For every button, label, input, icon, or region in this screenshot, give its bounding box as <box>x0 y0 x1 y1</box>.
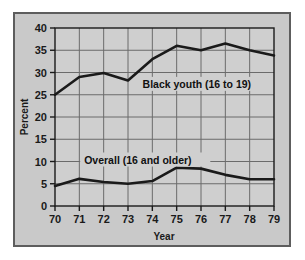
x-tick-label: 76 <box>195 213 207 225</box>
x-tick-label: 71 <box>73 213 85 225</box>
y-tick-label: 35 <box>35 44 47 56</box>
y-tick-label: 20 <box>35 111 47 123</box>
y-tick-label: 5 <box>41 178 47 190</box>
y-tick-label: 15 <box>35 133 47 145</box>
x-tick-label: 75 <box>171 213 183 225</box>
x-axis-tick-labels: 70717273747576777879 <box>49 213 280 225</box>
x-tick-label: 72 <box>98 213 110 225</box>
x-axis-title: Year <box>153 231 174 242</box>
chart-canvas: 0510152025303540 70717273747576777879 Bl… <box>15 14 289 245</box>
y-tick-label: 0 <box>41 200 47 212</box>
line-chart: 0510152025303540 70717273747576777879 Bl… <box>15 14 289 245</box>
x-tick-label: 79 <box>268 213 280 225</box>
x-tick-label: 77 <box>219 213 231 225</box>
y-tick-label: 25 <box>35 89 47 101</box>
y-axis-title: Percent <box>19 98 30 135</box>
y-tick-label: 40 <box>35 22 47 34</box>
y-tick-label: 30 <box>35 67 47 79</box>
y-axis-tick-labels: 0510152025303540 <box>35 22 47 212</box>
x-tick-label: 78 <box>244 213 256 225</box>
x-tick-label: 70 <box>49 213 61 225</box>
figure-frame: 0510152025303540 70717273747576777879 Bl… <box>13 12 291 247</box>
x-axis-ticks <box>55 206 274 211</box>
x-tick-label: 73 <box>122 213 134 225</box>
series-annotation-label: Black youth (16 to 19) <box>143 78 252 90</box>
series-annotation-label: Overall (16 and older) <box>84 154 191 166</box>
y-axis-ticks <box>50 28 55 206</box>
x-tick-label: 74 <box>146 213 159 225</box>
y-tick-label: 10 <box>35 156 47 168</box>
